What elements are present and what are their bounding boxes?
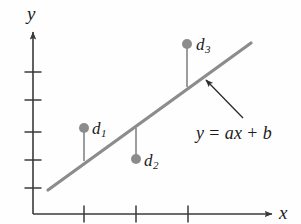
equation-slope-term: a — [225, 123, 234, 143]
data-point-label-d3: d3 — [196, 36, 210, 53]
data-point-label-subscript-d2: 2 — [153, 159, 159, 171]
equation-plus-sign: + — [246, 123, 258, 143]
data-point-d2 — [131, 154, 141, 164]
equation-intercept-term: b — [263, 123, 272, 143]
data-point-label-base-d3: d — [196, 35, 205, 54]
data-point-label-subscript-d1: 1 — [101, 127, 107, 139]
figure-canvas: y x y=ax+b d1d2d3 — [0, 0, 301, 224]
diagram-svg — [0, 0, 301, 224]
data-point-label-d2: d2 — [144, 152, 158, 169]
data-point-label-base-d1: d — [92, 119, 101, 138]
fit-line-equation-label: y=ax+b — [196, 124, 272, 142]
data-point-label-subscript-d3: 3 — [205, 43, 211, 55]
data-point-label-base-d2: d — [144, 151, 153, 170]
data-point-label-d1: d1 — [92, 120, 106, 137]
equation-equals-sign: = — [208, 123, 220, 143]
data-point-d1 — [79, 123, 89, 133]
data-point-d3 — [182, 39, 192, 49]
y-axis-label: y — [27, 4, 35, 23]
equation-lhs: y — [196, 123, 204, 143]
x-axis-label: x — [279, 203, 287, 222]
equation-variable: x — [234, 123, 242, 143]
equation-pointer-arrow — [206, 80, 243, 118]
